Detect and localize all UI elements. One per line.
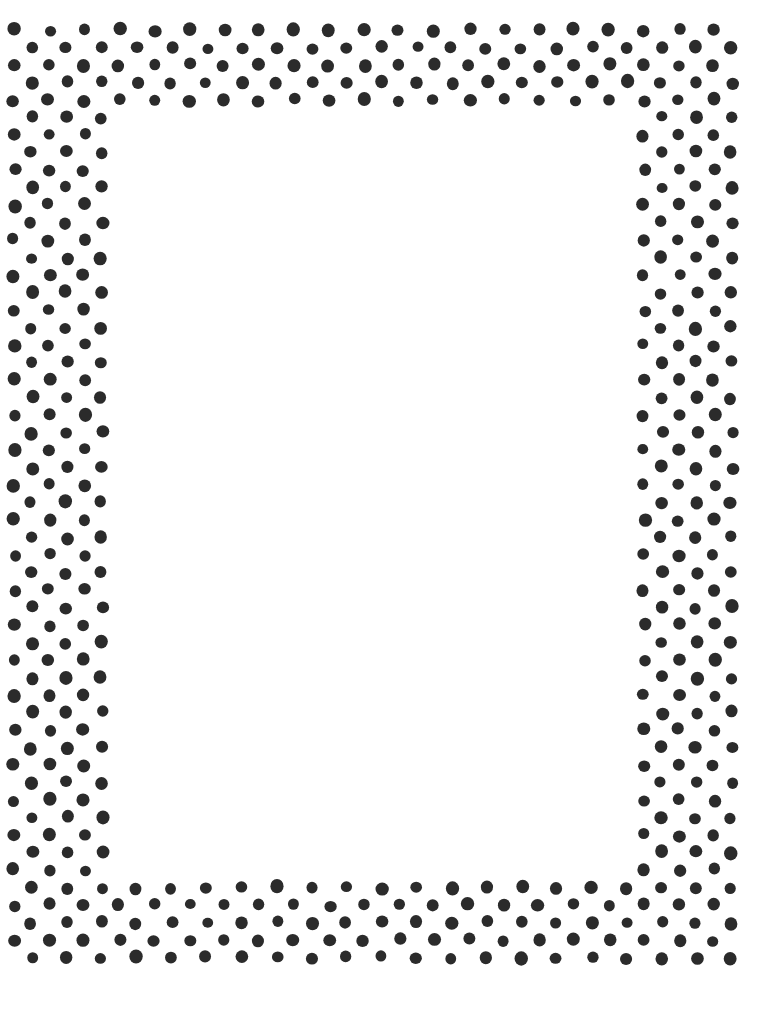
border-dot	[709, 795, 721, 808]
border-dot	[79, 514, 90, 526]
border-dot	[447, 77, 459, 90]
border-dot	[672, 550, 685, 562]
border-dot	[24, 146, 36, 158]
border-dot	[674, 934, 686, 947]
border-dot	[8, 618, 21, 630]
border-dot	[710, 480, 721, 491]
border-dot	[636, 130, 648, 143]
border-dot	[41, 93, 54, 105]
border-dot	[42, 340, 54, 352]
border-dot	[691, 776, 703, 787]
border-dot	[708, 129, 720, 141]
border-dot	[341, 77, 353, 89]
border-dot	[95, 635, 108, 649]
border-dot	[655, 497, 668, 509]
border-dot	[516, 880, 529, 893]
border-dot	[219, 24, 232, 37]
border-dot	[427, 25, 440, 38]
border-dot	[516, 77, 528, 89]
border-dot	[709, 199, 721, 211]
border-dot	[44, 129, 55, 139]
border-dot	[61, 742, 74, 755]
border-dot	[727, 463, 740, 475]
border-dot	[413, 42, 424, 52]
border-dot	[236, 950, 249, 963]
border-dot	[656, 708, 669, 721]
border-dot	[8, 128, 21, 140]
border-dot	[724, 952, 737, 965]
border-dot	[44, 758, 57, 771]
border-dot	[691, 496, 703, 509]
border-dot	[8, 935, 21, 947]
border-dot	[77, 652, 90, 665]
border-dot	[96, 810, 109, 824]
border-dot	[655, 288, 667, 299]
border-dot	[586, 916, 599, 929]
border-dot	[375, 40, 387, 53]
border-dot	[724, 636, 737, 649]
border-dot	[639, 655, 651, 667]
border-dot	[78, 583, 90, 595]
border-dot	[76, 934, 89, 947]
border-dot	[656, 392, 668, 404]
border-dot	[689, 813, 701, 824]
border-dot	[672, 95, 683, 105]
border-dot	[307, 76, 319, 88]
border-dot	[638, 828, 649, 839]
border-dot	[44, 865, 55, 877]
border-dot	[603, 57, 616, 70]
border-dot	[6, 862, 19, 875]
border-dot	[427, 899, 439, 911]
border-dot	[289, 93, 301, 105]
border-dot	[44, 897, 56, 909]
border-dot	[690, 355, 702, 367]
border-dot	[688, 741, 701, 754]
border-dot	[707, 24, 719, 36]
border-dot	[59, 42, 71, 53]
border-dot	[691, 391, 704, 404]
border-dot	[497, 57, 510, 70]
border-dot	[235, 917, 247, 930]
border-dot	[410, 952, 422, 963]
border-dot	[604, 934, 617, 947]
border-dot	[725, 705, 737, 718]
border-dot	[673, 617, 686, 629]
border-dot	[7, 829, 20, 841]
border-dot	[185, 899, 196, 909]
border-dot	[550, 882, 562, 895]
border-dot	[45, 725, 56, 737]
border-dot	[724, 393, 736, 406]
border-dot	[674, 865, 686, 877]
border-dot	[8, 305, 20, 317]
border-dot	[339, 916, 351, 928]
border-dot	[727, 777, 738, 789]
border-dot	[307, 44, 319, 55]
border-dot	[149, 59, 160, 71]
border-dot	[252, 95, 265, 107]
border-dot	[183, 22, 196, 36]
border-dot	[272, 951, 284, 962]
border-dot	[24, 742, 37, 756]
border-dot	[534, 95, 545, 106]
border-dot	[655, 323, 667, 334]
border-dot	[654, 77, 666, 88]
border-dot	[709, 653, 722, 667]
border-dot	[655, 882, 667, 893]
border-dot	[43, 792, 56, 806]
border-dot	[707, 829, 718, 841]
border-dot	[358, 92, 371, 106]
border-dot	[516, 916, 528, 928]
border-dot	[253, 898, 264, 910]
border-dot	[690, 252, 702, 263]
border-dot	[7, 233, 18, 245]
border-dot	[26, 672, 38, 685]
border-dot	[27, 952, 38, 963]
border-dot	[689, 845, 702, 857]
border-dot	[675, 269, 686, 280]
border-dot	[637, 863, 649, 876]
border-dot	[77, 760, 90, 773]
border-dot	[96, 75, 107, 87]
border-dot	[724, 145, 737, 159]
border-dot	[689, 322, 702, 336]
border-dot	[602, 23, 615, 37]
